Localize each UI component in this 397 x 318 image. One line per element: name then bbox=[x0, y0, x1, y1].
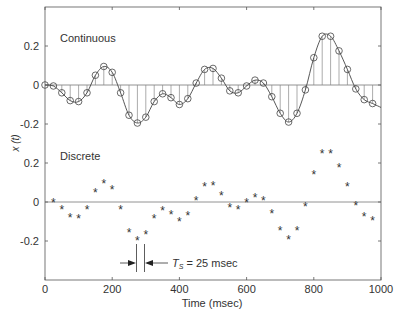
discrete-sample-marker: * bbox=[143, 228, 148, 242]
ts-value: = 25 msec bbox=[183, 257, 238, 269]
chart: *************************************** … bbox=[0, 0, 397, 318]
discrete-sample-marker: * bbox=[127, 226, 132, 240]
continuous-panel bbox=[42, 33, 381, 126]
x-axis-label: Time (msec) bbox=[182, 297, 243, 309]
svg-text:-0.2: -0.2 bbox=[20, 118, 39, 130]
discrete-sample-marker: * bbox=[362, 210, 367, 224]
svg-text:-0.2: -0.2 bbox=[20, 235, 39, 247]
discrete-sample-marker: * bbox=[320, 147, 325, 161]
y-axis-label: x (t) bbox=[10, 134, 21, 152]
discrete-sample-marker: * bbox=[59, 203, 64, 217]
discrete-sample-marker: * bbox=[303, 200, 308, 214]
discrete-sample-marker: * bbox=[76, 212, 81, 226]
discrete-sample-marker: * bbox=[286, 233, 291, 247]
discrete-sample-marker: * bbox=[152, 212, 157, 226]
discrete-sample-marker: * bbox=[101, 177, 106, 191]
discrete-sample-marker: * bbox=[85, 203, 90, 217]
discrete-sample-marker: * bbox=[135, 234, 140, 248]
svg-text:600: 600 bbox=[237, 283, 255, 295]
discrete-sample-marker: * bbox=[227, 201, 232, 215]
chart-svg: *************************************** … bbox=[0, 0, 397, 318]
discrete-sample-marker: * bbox=[353, 199, 358, 213]
discrete-sample-marker: * bbox=[169, 208, 174, 222]
discrete-sample-marker: * bbox=[110, 183, 115, 197]
svg-text:0: 0 bbox=[33, 79, 39, 91]
svg-text:1000: 1000 bbox=[369, 283, 393, 295]
discrete-sample-marker: * bbox=[370, 214, 375, 228]
discrete-sample-marker: * bbox=[269, 207, 274, 221]
discrete-sample-marker: * bbox=[51, 196, 56, 210]
discrete-sample-marker: * bbox=[93, 186, 98, 200]
discrete-label: Discrete bbox=[60, 150, 100, 162]
discrete-sample-marker: * bbox=[211, 179, 216, 193]
discrete-sample-marker: * bbox=[328, 147, 333, 161]
svg-text:TS = 25 msec: TS = 25 msec bbox=[172, 257, 238, 270]
discrete-sample-marker: * bbox=[295, 224, 300, 238]
discrete-sample-marker: * bbox=[244, 196, 249, 210]
svg-text:0.2: 0.2 bbox=[24, 157, 39, 169]
discrete-sample-marker: * bbox=[261, 194, 266, 208]
discrete-sample-marker: * bbox=[345, 180, 350, 194]
svg-text:800: 800 bbox=[305, 283, 323, 295]
discrete-sample-marker: * bbox=[194, 194, 199, 208]
discrete-sample-marker: * bbox=[177, 215, 182, 229]
discrete-sample-marker: * bbox=[160, 204, 165, 218]
sample-period-annotation: TS = 25 msec bbox=[120, 244, 238, 272]
svg-text:200: 200 bbox=[103, 283, 121, 295]
discrete-sample-marker: * bbox=[337, 161, 342, 175]
svg-text:0: 0 bbox=[42, 283, 48, 295]
discrete-sample-marker: * bbox=[311, 168, 316, 182]
discrete-sample-marker: * bbox=[202, 180, 207, 194]
discrete-sample-marker: * bbox=[219, 189, 224, 203]
discrete-sample-marker: * bbox=[185, 209, 190, 223]
discrete-sample-marker: * bbox=[236, 203, 241, 217]
discrete-sample-marker: * bbox=[118, 203, 123, 217]
continuous-label: Continuous bbox=[60, 32, 116, 44]
svg-text:400: 400 bbox=[170, 283, 188, 295]
discrete-sample-marker: * bbox=[68, 211, 73, 225]
discrete-sample-marker: * bbox=[253, 191, 258, 205]
svg-text:0: 0 bbox=[33, 196, 39, 208]
discrete-sample-marker: * bbox=[278, 224, 283, 238]
svg-text:0.2: 0.2 bbox=[24, 40, 39, 52]
